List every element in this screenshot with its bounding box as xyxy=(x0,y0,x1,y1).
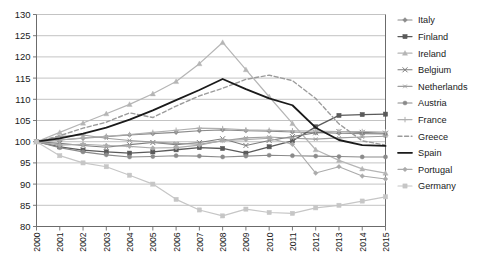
data-point-marker xyxy=(34,140,38,144)
x-axis-tick-label: 2013 xyxy=(334,232,344,251)
y-axis-tick-label: 120 xyxy=(15,51,31,62)
data-point-marker xyxy=(360,112,364,116)
data-point-marker xyxy=(290,154,294,158)
data-point-marker xyxy=(383,177,388,182)
data-point-marker xyxy=(267,210,271,214)
chart-canvas: 80859095100105110115120125130 2000200120… xyxy=(0,0,486,272)
legend-item-france[interactable]: France xyxy=(398,115,447,125)
legend-label: Germany xyxy=(418,181,456,191)
data-point-marker xyxy=(81,161,85,165)
data-point-marker xyxy=(80,135,85,140)
x-axis-tick-label: 2010 xyxy=(265,232,275,251)
legend-label: Greece xyxy=(418,132,448,142)
data-point-marker xyxy=(151,182,155,186)
data-point-marker xyxy=(337,154,341,158)
data-point-marker xyxy=(290,211,294,215)
data-point-marker xyxy=(244,207,248,211)
legend-label: Ireland xyxy=(418,49,446,59)
legend-label: Finland xyxy=(418,32,448,42)
y-axis-tick-label: 95 xyxy=(20,157,31,168)
line-chart: 80859095100105110115120125130 2000200120… xyxy=(0,0,486,272)
data-point-marker xyxy=(81,150,85,154)
x-axis-tick-label: 2011 xyxy=(288,232,298,251)
y-axis-tick-label: 105 xyxy=(15,115,31,126)
data-point-marker xyxy=(383,195,387,199)
x-axis-tick-label: 2015 xyxy=(381,232,391,251)
legend-item-germany[interactable]: Germany xyxy=(398,181,456,191)
data-point-marker xyxy=(58,154,62,158)
y-axis-tick-label: 100 xyxy=(15,136,31,147)
data-point-marker xyxy=(314,154,318,158)
legend-label: Spain xyxy=(418,148,442,158)
data-point-marker xyxy=(127,155,131,159)
y-axis-tick-label: 130 xyxy=(15,9,31,20)
data-point-marker xyxy=(174,154,178,158)
series-line xyxy=(37,42,386,173)
legend-item-italy[interactable]: Italy xyxy=(398,15,435,25)
legend-item-austria[interactable]: Austria xyxy=(398,98,447,108)
legend-item-ireland[interactable]: Ireland xyxy=(398,49,446,59)
data-point-marker xyxy=(403,101,407,105)
chart-legend: ItalyFinlandIrelandBelgiumNetherlandsAus… xyxy=(398,15,468,191)
legend-item-portugal[interactable]: Portugal xyxy=(398,165,452,175)
data-point-marker xyxy=(127,151,131,155)
x-axis-tick-label: 2003 xyxy=(102,232,112,251)
data-point-marker xyxy=(360,174,365,179)
data-point-marker xyxy=(267,153,271,157)
legend-item-belgium[interactable]: Belgium xyxy=(398,65,452,75)
data-point-marker xyxy=(313,137,318,141)
legend-item-spain[interactable]: Spain xyxy=(398,148,442,158)
x-axis-tick-label: 2000 xyxy=(32,232,42,251)
data-point-marker xyxy=(243,127,248,132)
data-point-marker xyxy=(402,117,407,122)
data-point-marker xyxy=(104,165,108,169)
data-point-marker xyxy=(221,146,225,150)
series-line xyxy=(37,75,386,145)
data-point-marker xyxy=(150,140,155,144)
legend-label: Netherlands xyxy=(418,82,468,92)
data-point-marker xyxy=(360,155,364,159)
data-point-marker xyxy=(337,203,341,207)
data-point-marker xyxy=(197,154,201,158)
x-axis-tick-label: 2007 xyxy=(195,232,205,251)
x-axis-tick-label: 2012 xyxy=(311,232,321,251)
x-axis-tick-label: 2004 xyxy=(125,232,135,251)
legend-label: Belgium xyxy=(418,65,452,75)
y-axis-tick-labels: 80859095100105110115120125130 xyxy=(15,9,31,232)
x-axis-tick-labels: 2000200120022003200420052006200720082009… xyxy=(32,232,391,251)
data-point-marker xyxy=(403,167,408,172)
data-point-marker xyxy=(337,113,341,117)
data-point-marker xyxy=(221,155,225,159)
data-point-marker xyxy=(174,197,178,201)
legend-label: Italy xyxy=(418,15,435,25)
data-point-marker xyxy=(403,184,407,188)
data-point-marker xyxy=(221,214,225,218)
series-greece xyxy=(37,75,386,145)
legend-item-finland[interactable]: Finland xyxy=(398,32,448,42)
data-point-marker xyxy=(403,18,408,23)
data-point-marker xyxy=(383,112,387,116)
legend-item-netherlands[interactable]: Netherlands xyxy=(398,82,468,92)
legend-label: Austria xyxy=(418,98,447,108)
series-line xyxy=(37,138,386,179)
data-point-marker xyxy=(127,132,132,137)
data-point-marker xyxy=(127,173,131,177)
y-axis-tick-label: 125 xyxy=(15,30,31,41)
y-axis-tick-label: 90 xyxy=(20,179,31,190)
data-series xyxy=(34,40,388,218)
data-point-marker xyxy=(402,85,407,89)
data-point-marker xyxy=(220,40,225,45)
data-point-marker xyxy=(383,155,387,159)
y-axis-tick-label: 85 xyxy=(20,200,31,211)
data-point-marker xyxy=(244,154,248,158)
y-axis-tick-label: 110 xyxy=(15,94,30,105)
x-axis-tick-label: 2005 xyxy=(148,232,158,251)
series-line xyxy=(37,142,386,157)
series-ireland xyxy=(34,40,388,175)
legend-label: France xyxy=(418,115,447,125)
legend-label: Portugal xyxy=(418,165,452,175)
data-point-marker xyxy=(197,208,201,212)
legend-item-greece[interactable]: Greece xyxy=(398,132,448,142)
x-axis-tick-label: 2008 xyxy=(218,232,228,251)
x-axis-tick-label: 2001 xyxy=(55,232,65,251)
